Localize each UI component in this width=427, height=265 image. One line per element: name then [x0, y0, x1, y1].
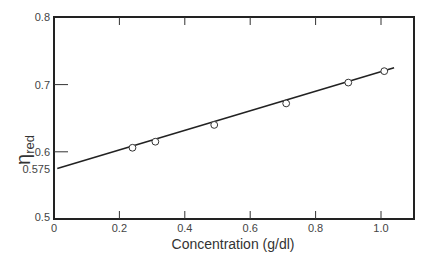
svg-text:ηred: ηred — [12, 135, 37, 165]
x-tick-label: 0.2 — [112, 222, 127, 234]
x-tick-label: 0 — [51, 222, 57, 234]
x-tick-label: 0.6 — [243, 222, 258, 234]
axis-ticks — [54, 17, 381, 219]
y-tick-label: 0.5 — [35, 211, 50, 223]
tick-labels: 00.20.40.60.81.00.50.5750.60.70.8 — [22, 11, 388, 234]
data-point — [152, 138, 159, 145]
data-point — [345, 79, 352, 86]
fit-line — [57, 68, 394, 169]
y-axis-label: ηred — [12, 135, 37, 165]
data-points — [129, 68, 388, 151]
y-tick-label: 0.8 — [35, 11, 50, 23]
x-tick-label: 0.4 — [177, 222, 192, 234]
plot-frame — [54, 17, 414, 219]
chart: 00.20.40.60.81.00.50.5750.60.70.8 Concen… — [0, 0, 427, 265]
y-tick-label: 0.7 — [35, 79, 50, 91]
data-point — [381, 68, 388, 75]
data-point — [129, 144, 136, 151]
x-tick-label: 1.0 — [373, 222, 388, 234]
data-point — [283, 100, 290, 107]
data-point — [211, 122, 218, 129]
x-tick-label: 0.8 — [308, 222, 323, 234]
x-axis-label: Concentration (g/dl) — [172, 236, 295, 252]
